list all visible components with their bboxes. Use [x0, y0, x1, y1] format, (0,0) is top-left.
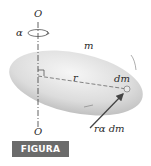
motion-stroke-top [131, 55, 136, 70]
figure-caption: FIGURA B/1 [12, 141, 69, 157]
axis-label-bottom: O [34, 127, 42, 137]
radius-label: r [73, 73, 78, 83]
mass-label: m [84, 41, 93, 51]
axis-label-top: O [34, 9, 42, 19]
rotation-arrow-icon [28, 30, 49, 37]
tangential-force-label: rα dm [94, 124, 125, 134]
alpha-label: α [16, 28, 23, 38]
mass-element-label: dm [114, 74, 130, 84]
mass-element-point [124, 86, 130, 92]
rigid-body-diagram: O α m r dm rα dm O FIGURA B/1 [0, 0, 151, 166]
